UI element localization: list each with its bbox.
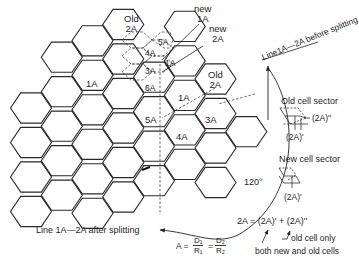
label-new-1a: new1A [194,4,211,24]
old-only-arrow [282,231,290,239]
old-sector-title: Old cell sector [281,96,338,106]
new-sector-icon [279,168,300,188]
equation: 2A = (2A)' + (2A)'' [237,216,307,226]
label-small-6a: 6A [145,83,155,93]
old-sector-double-prime: (2A)'' [312,113,331,123]
new-sector-prime: (2A)' [284,192,302,202]
label-small-1a: 1A [165,58,175,68]
label-small-3a: 3A [145,66,155,76]
line-after-label: Line 1A—2A after splitting [36,225,140,235]
note-old-only: old cell only [291,233,335,243]
label-new-2a: new2A [209,24,226,44]
label-1a-center: 1A [178,93,190,103]
label-small-4a: 4A [145,48,155,58]
new-sector-title: New cell sector [279,154,340,164]
old-sector-icon [280,108,310,130]
note-both: both new and old cells [255,246,339,256]
label-small-5a: 5A [158,37,168,47]
old-sector-prime: (2A)' [286,132,304,142]
cell-splitting-diagram: Old2A new1A new2A 5A 4A 1A 3A 6A 1A Old2… [0,0,359,264]
angle-label: 120° [244,177,263,187]
label-1a-left: 1A [86,79,98,89]
hex-cell [195,167,236,197]
label-old-2a-right: Old2A [208,70,223,90]
label-4a: 4A [176,132,188,142]
both-cells-arrow [262,230,268,243]
label-3a: 3A [205,115,217,125]
label-old-2a-top: Old2A [124,14,139,34]
label-5a: 5A [145,115,157,125]
